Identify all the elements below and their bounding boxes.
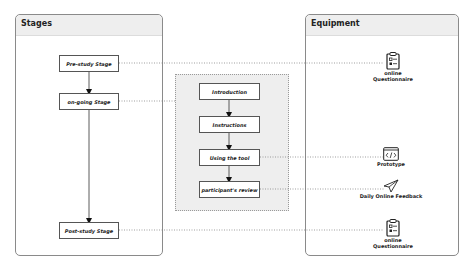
equipment-item-prototype[interactable]: Prototype bbox=[361, 147, 421, 167]
clipboard-checklist-icon bbox=[386, 52, 400, 70]
step-label: Using the tool bbox=[210, 155, 250, 161]
stage-box-post-study[interactable]: Post-study Stage bbox=[59, 222, 119, 239]
step-label: Introduction bbox=[212, 89, 247, 95]
step-box-introduction[interactable]: Introduction bbox=[199, 83, 260, 100]
equipment-item-daily-online-feedback[interactable]: Daily Online Feedback bbox=[361, 179, 421, 199]
equipment-label: Daily Online Feedback bbox=[360, 193, 423, 199]
clipboard-checklist-icon bbox=[386, 219, 400, 237]
step-box-instructions[interactable]: Instructions bbox=[199, 116, 260, 133]
equipment-item-online-questionnaire-top[interactable]: online Questionnaire bbox=[363, 52, 423, 82]
step-label: participant's review bbox=[201, 187, 257, 193]
stage-label: Pre-study Stage bbox=[66, 61, 111, 67]
step-box-participants-review[interactable]: participant's review bbox=[199, 181, 260, 198]
paper-plane-icon bbox=[383, 179, 399, 193]
stage-box-pre-study[interactable]: Pre-study Stage bbox=[59, 55, 119, 72]
stage-box-on-going[interactable]: on-going Stage bbox=[59, 93, 119, 110]
step-box-using-the-tool[interactable]: Using the tool bbox=[199, 149, 260, 166]
stage-label: on-going Stage bbox=[67, 99, 110, 105]
equipment-label: Questionnaire bbox=[373, 243, 413, 249]
stage-label: Post-study Stage bbox=[65, 228, 113, 234]
equipment-label: Questionnaire bbox=[373, 76, 413, 82]
step-label: Instructions bbox=[213, 122, 247, 128]
equipment-item-online-questionnaire-bottom[interactable]: online Questionnaire bbox=[363, 219, 423, 249]
code-window-icon bbox=[383, 147, 399, 161]
equipment-label: Prototype bbox=[377, 161, 405, 167]
